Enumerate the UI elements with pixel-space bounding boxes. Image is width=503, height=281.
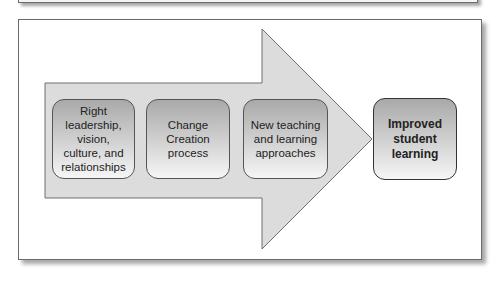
outcome-box: Improved student learning — [373, 98, 457, 180]
step-leadership-box: Right leadership, vision, culture, and r… — [52, 99, 135, 179]
outcome-label: Improved student learning — [388, 117, 442, 162]
step-leadership-label: Right leadership, vision, culture, and r… — [61, 104, 126, 174]
step-new-teaching-box: New teaching and learning approaches — [243, 99, 328, 179]
step-new-teaching-label: New teaching and learning approaches — [251, 118, 321, 160]
step-change-creation-label: Change Creation process — [166, 118, 209, 160]
step-change-creation-box: Change Creation process — [146, 99, 230, 179]
